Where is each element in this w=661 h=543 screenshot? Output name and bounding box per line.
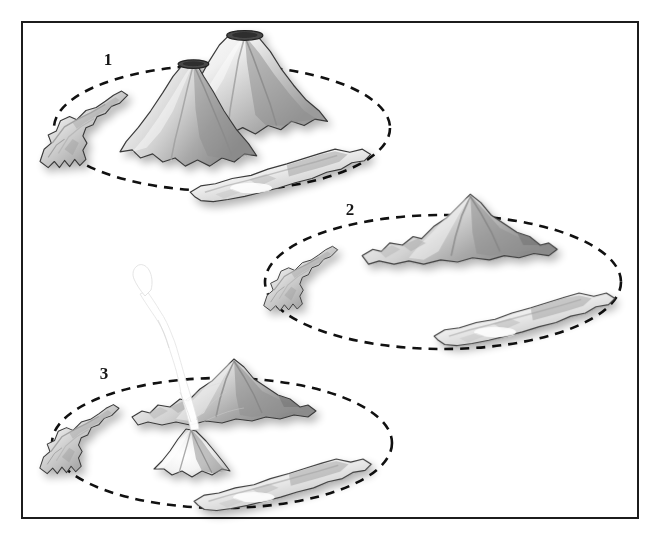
stage-2-group: 2 bbox=[264, 194, 621, 349]
figure-root: 1 2 bbox=[0, 0, 661, 543]
stage-1-group: 1 bbox=[40, 31, 390, 202]
stage-2-southeast-elongated-island bbox=[434, 293, 615, 346]
stage-3-label: 3 bbox=[100, 364, 109, 383]
stage-3-collapsed-ridge-landmass bbox=[132, 359, 316, 425]
stage-1-label: 1 bbox=[104, 50, 113, 69]
stage-2-west-ridge-island bbox=[264, 246, 338, 310]
stage-1-west-ridge-island bbox=[40, 91, 128, 168]
stage-2-collapsed-ridge-landmass bbox=[362, 194, 557, 264]
stage-3-group: 3 bbox=[40, 265, 392, 511]
stage-2-label: 2 bbox=[346, 200, 355, 219]
caldera-evolution-diagram: 1 2 bbox=[0, 0, 661, 543]
stage-3-new-central-cone bbox=[154, 429, 230, 477]
